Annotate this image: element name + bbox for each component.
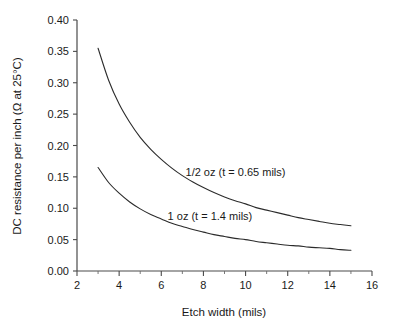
resistance-vs-etch-width-chart: 0.000.050.100.150.200.250.300.350.40 246…	[0, 0, 395, 326]
x-axis-tick-label: 6	[158, 279, 164, 291]
x-axis-tick-label: 4	[116, 279, 122, 291]
series-label-2: 1 oz (t = 1.4 mils)	[168, 210, 253, 222]
x-axis-title: Etch width (mils)	[182, 306, 267, 318]
y-axis-tick-label: 0.40	[48, 14, 69, 26]
y-axis-tick-label: 0.35	[48, 45, 69, 57]
x-axis-tick-label: 2	[74, 279, 80, 291]
x-axis-tick-label: 12	[282, 279, 294, 291]
y-axis-tick-label: 0.25	[48, 108, 69, 120]
y-axis-tick-label: 0.30	[48, 77, 69, 89]
chart-figure: 0.000.050.100.150.200.250.300.350.40 246…	[0, 0, 395, 326]
y-axis-tick-label: 0.20	[48, 140, 69, 152]
x-axis-tick-label: 16	[366, 279, 378, 291]
y-axis-title: DC resistance per inch (Ω at 25°C)	[11, 57, 23, 235]
y-axis-tick-label: 0.10	[48, 202, 69, 214]
y-axis-tick-label: 0.05	[48, 234, 69, 246]
y-axis-tick-label: 0.15	[48, 171, 69, 183]
x-axis-tick-label: 14	[324, 279, 336, 291]
series-label-1: 1/2 oz (t = 0.65 mils)	[186, 166, 286, 178]
y-axis-tick-label: 0.00	[48, 265, 69, 277]
x-axis-tick-label: 8	[200, 279, 206, 291]
x-axis-tick-label: 10	[239, 279, 251, 291]
